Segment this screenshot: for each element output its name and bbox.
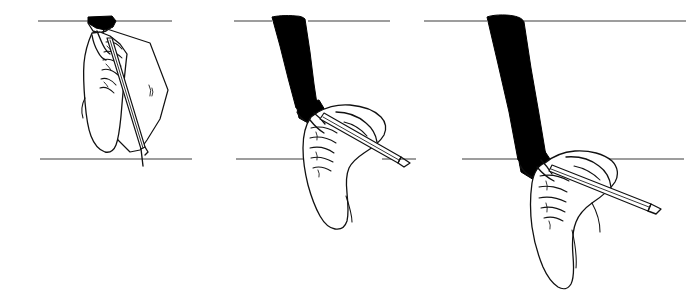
hand-grip-sequence-illustration: [0, 0, 699, 299]
illustration-root: Hand grip sequence Three-panel pen-and-i…: [0, 0, 699, 299]
